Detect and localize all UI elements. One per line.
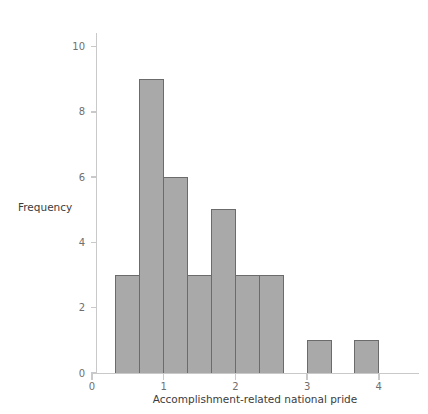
- histogram-bar: [140, 79, 164, 373]
- y-tick-label: 6: [79, 172, 85, 183]
- x-tick-label: 2: [232, 381, 238, 392]
- x-tick-label: 0: [89, 381, 95, 392]
- y-axis-title: Frequency: [18, 201, 72, 213]
- y-tick-label: 4: [79, 237, 85, 248]
- histogram-bar: [212, 210, 236, 373]
- histogram-figure: 0246810 01234 Frequency Accomplishment-r…: [0, 0, 428, 414]
- histogram-bar: [235, 275, 259, 373]
- histogram-bar: [164, 177, 188, 373]
- x-tick-label: 3: [304, 381, 310, 392]
- histogram-plot: 0246810 01234 Frequency Accomplishment-r…: [0, 0, 428, 414]
- histogram-bar: [307, 340, 331, 373]
- y-tick-label: 8: [79, 106, 85, 117]
- histogram-bar: [355, 340, 379, 373]
- x-tick-label: 4: [376, 381, 382, 392]
- y-tick-label: 10: [72, 41, 85, 52]
- histogram-bar: [259, 275, 283, 373]
- y-tick-label: 0: [79, 368, 85, 379]
- histogram-bar: [188, 275, 212, 373]
- y-tick-label: 2: [79, 302, 85, 313]
- x-axis-title: Accomplishment-related national pride: [153, 393, 357, 405]
- histogram-bar: [116, 275, 140, 373]
- x-tick-label: 1: [161, 381, 167, 392]
